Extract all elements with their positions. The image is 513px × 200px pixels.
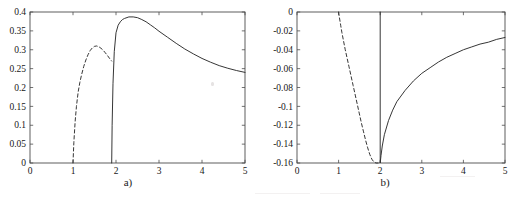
panel-b-axes bbox=[297, 12, 505, 163]
svg-text:0.35: 0.35 bbox=[9, 26, 26, 36]
svg-text:1: 1 bbox=[71, 166, 76, 175]
b-series-solid-branch bbox=[380, 12, 505, 163]
scan-speck-artifact bbox=[211, 82, 214, 86]
panel-b-tick-labels: 012345-0.16-0.14-0.12-0.1-0.08-0.06-0.04… bbox=[273, 7, 507, 175]
svg-text:0: 0 bbox=[295, 166, 300, 175]
svg-text:0.05: 0.05 bbox=[9, 139, 26, 149]
panel-a-plot: 01234500.050.10.150.20.250.30.350.4 bbox=[0, 0, 256, 175]
svg-text:0: 0 bbox=[28, 166, 33, 175]
svg-text:2: 2 bbox=[378, 166, 383, 175]
panel-a-curves bbox=[73, 17, 245, 163]
svg-text:-0.12: -0.12 bbox=[273, 120, 293, 130]
svg-text:0.25: 0.25 bbox=[9, 64, 26, 74]
svg-text:-0.16: -0.16 bbox=[273, 158, 293, 168]
scan-noise-artifact bbox=[255, 193, 310, 194]
b-series-dashed-branch bbox=[339, 12, 379, 163]
svg-text:0: 0 bbox=[288, 7, 293, 17]
svg-text:5: 5 bbox=[243, 166, 248, 175]
svg-text:-0.1: -0.1 bbox=[278, 102, 293, 112]
svg-text:-0.02: -0.02 bbox=[273, 26, 293, 36]
svg-text:0: 0 bbox=[21, 158, 26, 168]
scan-noise-artifact bbox=[320, 193, 360, 194]
svg-text:1: 1 bbox=[336, 166, 341, 175]
svg-text:3: 3 bbox=[419, 166, 424, 175]
svg-text:5: 5 bbox=[503, 166, 508, 175]
svg-text:4: 4 bbox=[200, 166, 205, 175]
scan-noise-artifact bbox=[440, 176, 475, 177]
panel-b-curves bbox=[339, 12, 505, 163]
panel-b: 012345-0.16-0.14-0.12-0.1-0.08-0.06-0.04… bbox=[257, 0, 513, 200]
figure-two-panel-plot: 01234500.050.10.150.20.250.30.350.4 a) 0… bbox=[0, 0, 513, 200]
panel-b-caption: b) bbox=[257, 176, 513, 188]
panel-a-caption: a) bbox=[0, 176, 256, 188]
svg-text:3: 3 bbox=[157, 166, 162, 175]
panel-a-axes bbox=[30, 12, 245, 163]
svg-text:4: 4 bbox=[461, 166, 466, 175]
svg-text:0.1: 0.1 bbox=[14, 120, 26, 130]
svg-text:0.15: 0.15 bbox=[9, 102, 26, 112]
panel-a: 01234500.050.10.150.20.250.30.350.4 a) bbox=[0, 0, 256, 200]
svg-text:-0.06: -0.06 bbox=[273, 64, 293, 74]
svg-text:0.3: 0.3 bbox=[14, 45, 26, 55]
svg-text:-0.14: -0.14 bbox=[273, 139, 293, 149]
svg-text:-0.08: -0.08 bbox=[273, 83, 293, 93]
panel-a-tick-labels: 01234500.050.10.150.20.250.30.350.4 bbox=[9, 7, 247, 175]
panel-b-plot: 012345-0.16-0.14-0.12-0.1-0.08-0.06-0.04… bbox=[257, 0, 513, 175]
svg-text:0.4: 0.4 bbox=[14, 7, 26, 17]
svg-text:0.2: 0.2 bbox=[14, 83, 26, 93]
a-series-dashed-branch bbox=[73, 46, 112, 163]
a-series-solid-branch bbox=[112, 17, 245, 163]
svg-text:2: 2 bbox=[114, 166, 119, 175]
svg-text:-0.04: -0.04 bbox=[273, 45, 293, 55]
